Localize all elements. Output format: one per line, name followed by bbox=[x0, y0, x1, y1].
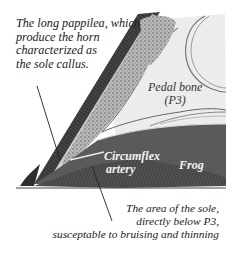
label-line: (P3) bbox=[148, 94, 202, 107]
hoof-diagram: The long pappilea, which produce the hor… bbox=[0, 0, 236, 263]
annotation-line: characterized as bbox=[16, 44, 140, 58]
annotation-line: susceptable to bruising and thinning bbox=[53, 228, 219, 241]
papillae-leader-line bbox=[37, 86, 60, 160]
frog-label: Frog bbox=[179, 159, 204, 173]
circumflex-artery-label: Circumflex artery bbox=[104, 150, 160, 176]
annotation-line: directly below P3, bbox=[53, 215, 219, 228]
sole-annotation: The area of the sole, directly below P3,… bbox=[53, 202, 219, 242]
annotation-line: produce the horn bbox=[16, 31, 140, 45]
annotation-line: The area of the sole, bbox=[53, 202, 219, 215]
annotation-line: the sole callus. bbox=[16, 58, 140, 72]
annotation-line: The long pappilea, which bbox=[16, 17, 140, 31]
pedal-bone-label: Pedal bone (P3) bbox=[148, 81, 202, 107]
label-line: artery bbox=[104, 163, 160, 176]
papillae-annotation: The long pappilea, which produce the hor… bbox=[16, 17, 140, 71]
